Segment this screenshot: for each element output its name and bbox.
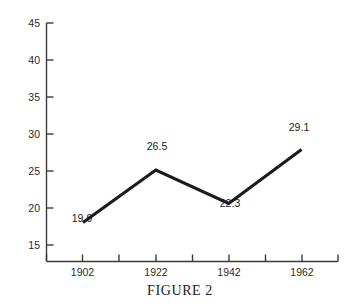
y-tick-label-15: 15: [28, 239, 40, 251]
x-tick-label-1942: 1942: [217, 266, 241, 278]
x-tick-label-1962: 1962: [290, 266, 314, 278]
data-label-1902: 19.9: [72, 212, 93, 224]
y-tick-label-35: 35: [28, 91, 40, 103]
x-tick-label-1902: 1902: [71, 266, 95, 278]
data-label-1942: 22.3: [220, 197, 241, 209]
data-label-1962: 29.1: [289, 121, 310, 133]
data-label-1922: 26.5: [147, 140, 168, 152]
y-axis-ticks: [47, 23, 54, 245]
y-tick-label-20: 20: [28, 202, 40, 214]
y-axis: 45 40 35 30 25 20 15: [28, 17, 53, 261]
x-axis-tick-labels: 1902 1922 1942 1962: [71, 266, 314, 278]
y-tick-label-40: 40: [28, 54, 40, 66]
y-tick-label-45: 45: [28, 17, 40, 29]
y-axis-tick-labels: 45 40 35 30 25 20 15: [28, 17, 40, 251]
data-point-labels: 19.9 26.5 22.3 29.1: [72, 121, 310, 224]
figure-container: 45 40 35 30 25 20 15: [0, 0, 360, 308]
y-tick-label-30: 30: [28, 128, 40, 140]
x-tick-label-1922: 1922: [144, 266, 168, 278]
line-chart: 45 40 35 30 25 20 15: [0, 0, 360, 308]
data-series-polyline: [83, 149, 302, 222]
x-axis-ticks: [47, 255, 339, 262]
x-axis: 1902 1922 1942 1962: [47, 255, 339, 279]
figure-caption: FIGURE 2: [0, 283, 360, 299]
y-tick-label-25: 25: [28, 165, 40, 177]
